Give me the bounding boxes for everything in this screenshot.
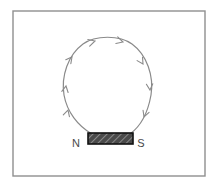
north-pole-label: N: [72, 137, 80, 149]
magnetic-field-diagram: N S: [0, 0, 217, 188]
bar-magnet: [88, 133, 133, 144]
south-pole-label: S: [137, 137, 144, 149]
bar-magnet-body: [88, 133, 133, 144]
figure-frame: [13, 11, 205, 176]
figure-container: N S: [0, 0, 217, 188]
